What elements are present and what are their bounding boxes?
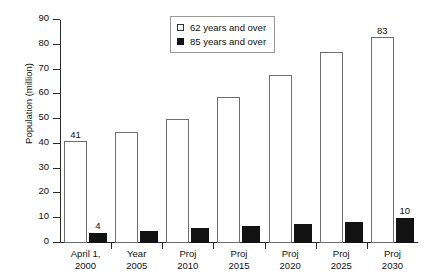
bar-group <box>269 20 312 243</box>
y-axis-title: Population (million) <box>23 29 34 179</box>
legend-item: 85 years and over <box>177 34 266 48</box>
y-tick: 10 <box>53 217 60 218</box>
bar-group <box>320 20 363 243</box>
y-tick: 90 <box>53 19 60 20</box>
bar-85-years-and-over <box>140 231 158 243</box>
y-axis-line <box>60 20 61 243</box>
bar-chart: Population (million) 0102030405060708090… <box>0 0 445 280</box>
legend-label: 85 years and over <box>190 36 266 47</box>
y-tick-label: 40 <box>38 136 49 147</box>
bar-value-label: 83 <box>377 25 388 36</box>
bar-85-years-and-over: 10 <box>396 218 414 243</box>
y-tick-label: 90 <box>38 12 49 23</box>
bar-62-years-and-over <box>217 97 240 243</box>
legend-item: 62 years and over <box>177 20 266 34</box>
bar-value-label: 4 <box>95 220 100 231</box>
x-axis-label-line: Proj <box>355 248 429 260</box>
bar-62-years-and-over: 83 <box>371 37 394 243</box>
plot-area: 0102030405060708090 4148310 <box>60 20 418 243</box>
bar-85-years-and-over <box>191 228 209 243</box>
y-tick: 0 <box>53 242 60 243</box>
bar-62-years-and-over <box>166 119 189 243</box>
chart-legend: 62 years and over85 years and over <box>170 16 275 53</box>
bar-85-years-and-over <box>242 226 260 243</box>
y-tick-label: 50 <box>38 111 49 122</box>
y-tick-label: 0 <box>44 235 49 246</box>
y-tick-label: 20 <box>38 185 49 196</box>
y-tick-label: 80 <box>38 37 49 48</box>
y-tick: 30 <box>53 168 60 169</box>
bar-62-years-and-over <box>115 132 138 244</box>
bar-62-years-and-over <box>269 75 292 243</box>
y-tick: 20 <box>53 192 60 193</box>
y-tick: 70 <box>53 69 60 70</box>
bar-group <box>166 20 209 243</box>
open-square-icon <box>177 24 184 31</box>
x-axis-label: Proj2030 <box>355 248 429 271</box>
bar-group: 8310 <box>371 20 414 243</box>
bar-85-years-and-over <box>345 222 363 243</box>
bar-62-years-and-over <box>320 52 343 243</box>
y-tick: 40 <box>53 143 60 144</box>
bar-value-label: 41 <box>70 129 81 140</box>
bar-62-years-and-over: 41 <box>64 141 87 243</box>
bar-group <box>217 20 260 243</box>
y-tick: 50 <box>53 118 60 119</box>
y-tick-label: 10 <box>38 210 49 221</box>
bar-group: 414 <box>64 20 107 243</box>
y-tick-label: 70 <box>38 62 49 73</box>
bar-group <box>115 20 158 243</box>
legend-label: 62 years and over <box>190 22 266 33</box>
bar-value-label: 10 <box>400 205 411 216</box>
y-tick: 80 <box>53 44 60 45</box>
y-tick-label: 60 <box>38 86 49 97</box>
y-tick-label: 30 <box>38 161 49 172</box>
x-axis-label-line: 2030 <box>355 260 429 272</box>
bar-85-years-and-over: 4 <box>89 233 107 243</box>
y-tick: 60 <box>53 93 60 94</box>
bar-85-years-and-over <box>294 224 312 243</box>
filled-square-icon <box>177 38 184 45</box>
